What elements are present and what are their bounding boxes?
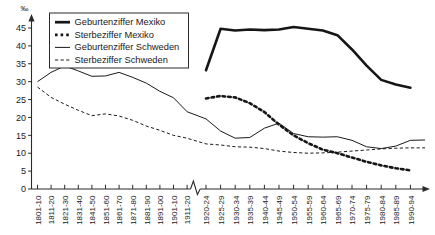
x-tick-label: 1811-20 xyxy=(47,195,56,224)
x-tick-label: 1950-54 xyxy=(290,195,299,225)
y-tick-label: 45 xyxy=(16,23,26,33)
y-axis-arrow xyxy=(28,14,34,22)
y-tick-label: 0 xyxy=(21,184,26,194)
x-tick-label: 1960-64 xyxy=(319,195,328,225)
x-tick-label: 1985-89 xyxy=(392,195,401,225)
x-tick-label: 1911-20 xyxy=(183,195,192,224)
x-tick-label: 1970-74 xyxy=(348,195,357,225)
x-tick-label: 1965-69 xyxy=(334,195,343,225)
legend-item-label: Geburtenziffer Mexiko xyxy=(75,17,166,27)
y-tick-label: 15 xyxy=(16,131,26,141)
x-tick-label: 1851-60 xyxy=(102,195,111,225)
y-tick-label: 30 xyxy=(16,77,26,87)
series-line-geburtenziffer-schweden xyxy=(38,66,426,149)
population-rates-chart: ‰0510152025303540451801-101811-201821-30… xyxy=(0,0,435,235)
y-tick-label: 10 xyxy=(16,148,26,158)
x-tick-label: 1980-84 xyxy=(378,195,387,225)
series-line-sterbeziffer-mexiko xyxy=(206,96,410,170)
x-tick-label: 1861-70 xyxy=(115,195,124,225)
legend-item-label: Sterbeziffer Schweden xyxy=(75,55,168,65)
x-tick-label: 1920-24 xyxy=(202,195,211,225)
x-tick-label: 1891-00 xyxy=(156,195,165,225)
x-tick-label: 1955-59 xyxy=(305,195,314,225)
x-tick-label: 1925-29 xyxy=(217,195,226,225)
x-tick-label: 1935-39 xyxy=(246,195,255,225)
x-tick-label: 1975-79 xyxy=(363,195,372,225)
x-tick-label: 1841-50 xyxy=(88,195,97,225)
y-tick-label: 35 xyxy=(16,59,26,69)
x-tick-label: 1871-80 xyxy=(129,195,138,225)
legend-item-label: Sterbeziffer Mexiko xyxy=(75,30,154,40)
legend-item-label: Geburtenziffer Schweden xyxy=(75,42,180,52)
x-tick-label: 1940-44 xyxy=(261,195,270,225)
x-tick-label: 1901-10 xyxy=(170,195,179,225)
x-axis-break-mark xyxy=(191,181,201,195)
x-axis-arrow xyxy=(423,186,431,192)
x-tick-label: 1945-49 xyxy=(275,195,284,225)
y-tick-label: 20 xyxy=(16,113,26,123)
series-line-geburtenziffer-mexiko xyxy=(206,27,410,88)
x-tick-label: 1821-30 xyxy=(61,195,70,225)
y-axis-unit-label: ‰ xyxy=(21,4,29,13)
x-tick-label: 1990-94 xyxy=(407,195,416,225)
chart-svg: ‰0510152025303540451801-101811-201821-30… xyxy=(0,0,435,235)
legend-item: Geburtenziffer Schweden xyxy=(55,42,179,52)
x-tick-label: 1831-40 xyxy=(75,195,84,225)
x-tick-label: 1930-34 xyxy=(232,195,241,225)
x-tick-label: 1801-10 xyxy=(34,195,43,225)
chart-legend: Geburtenziffer MexikoSterbeziffer Mexiko… xyxy=(50,13,189,68)
y-tick-label: 40 xyxy=(16,41,26,51)
x-tick-label: 1881-90 xyxy=(143,195,152,225)
y-tick-label: 25 xyxy=(16,95,26,105)
y-tick-label: 5 xyxy=(21,166,26,176)
